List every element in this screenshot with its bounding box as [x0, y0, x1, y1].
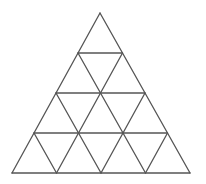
diagonal-line-left-parallel — [146, 133, 168, 173]
triangle-grid-figure — [0, 0, 206, 184]
diagram-canvas — [0, 0, 206, 184]
diagonal-line-right-parallel — [78, 53, 146, 173]
diagonal-line-right-parallel — [34, 133, 57, 173]
diagonal-line-left-parallel — [57, 53, 123, 173]
